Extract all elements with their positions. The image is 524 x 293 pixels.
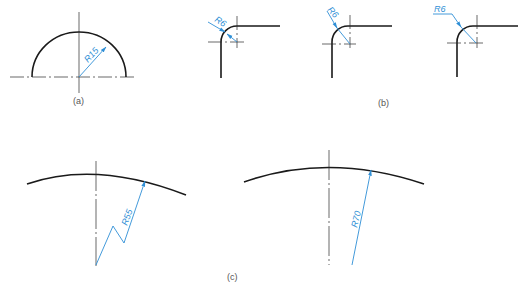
caption-c: (c) [227, 272, 238, 282]
dim-r6-3: R6 [434, 4, 446, 14]
panel-b-corner-3: R6 [433, 4, 518, 77]
dim-r15: R15 [82, 45, 101, 65]
panel-a: R15 (a) [10, 12, 137, 106]
rounded-corner-outline [332, 26, 392, 78]
panel-b-corner-1: R6 [208, 14, 280, 78]
radius-leader-ext [461, 27, 476, 43]
dim-r6-1: R6 [213, 14, 228, 29]
radius-leader-inner [227, 34, 237, 42]
panel-c-right: R70 (c) [227, 150, 424, 282]
caption-a: (a) [73, 96, 84, 106]
caption-b: (b) [378, 98, 389, 108]
rounded-corner-outline [221, 26, 280, 78]
radius-leader-ext [337, 28, 350, 44]
dim-r70: R70 [349, 210, 363, 228]
dim-r6-2: R6 [326, 5, 341, 20]
panel-c-left: R55 [27, 161, 186, 266]
technical-drawing: R15 (a) R6 R6 (b) R6 R55 [0, 0, 524, 293]
radius-leader [433, 14, 461, 27]
large-arc-outline [27, 174, 186, 195]
rounded-corner-outline [457, 26, 518, 77]
panel-b-corner-2: R6 (b) [322, 5, 392, 108]
large-arc-outline [244, 167, 424, 184]
